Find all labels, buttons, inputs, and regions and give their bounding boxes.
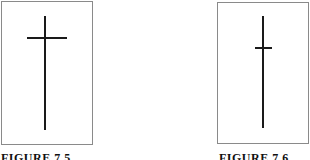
figure-7-5-vertical-line xyxy=(44,16,46,130)
figure-7-6-horizontal-line xyxy=(255,47,272,49)
figure-7-6-caption: FIGURE 7.6 xyxy=(219,151,289,160)
figure-7-5-horizontal-line xyxy=(27,37,67,39)
figure-7-5-panel xyxy=(1,1,93,145)
figure-7-6-vertical-line xyxy=(262,16,264,128)
figure-7-5-caption: FIGURE 7.5 xyxy=(1,151,71,160)
